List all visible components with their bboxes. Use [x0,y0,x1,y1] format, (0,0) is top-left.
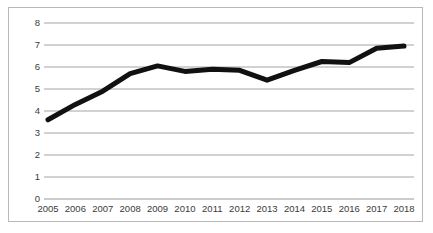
y-tick-label: 4 [26,105,40,116]
x-tick-label: 2005 [33,203,63,214]
y-tick-label: 2 [26,149,40,160]
x-tick-label: 2017 [362,203,392,214]
chart-canvas [0,0,433,233]
x-tick-label: 2016 [334,203,364,214]
line-chart: 012345678 200520062007200820092010201120… [0,0,433,233]
y-tick-label: 0 [26,193,40,204]
x-tick-label: 2014 [279,203,309,214]
y-tick-label: 3 [26,127,40,138]
gridline-group [44,23,414,199]
y-tick-label: 8 [26,17,40,28]
y-tick-label: 6 [26,61,40,72]
x-tick-label: 2007 [88,203,118,214]
x-tick-label: 2013 [252,203,282,214]
y-tick-label: 7 [26,39,40,50]
x-tick-label: 2009 [143,203,173,214]
data-series-line [48,46,404,120]
x-tick-label: 2012 [225,203,255,214]
y-tick-label: 5 [26,83,40,94]
y-tick-label: 1 [26,171,40,182]
x-tick-label: 2008 [115,203,145,214]
x-tick-label: 2010 [170,203,200,214]
x-tick-label: 2006 [60,203,90,214]
x-tick-label: 2015 [307,203,337,214]
x-tick-label: 2011 [197,203,227,214]
x-tick-label: 2018 [389,203,419,214]
data-line-group [48,46,404,120]
